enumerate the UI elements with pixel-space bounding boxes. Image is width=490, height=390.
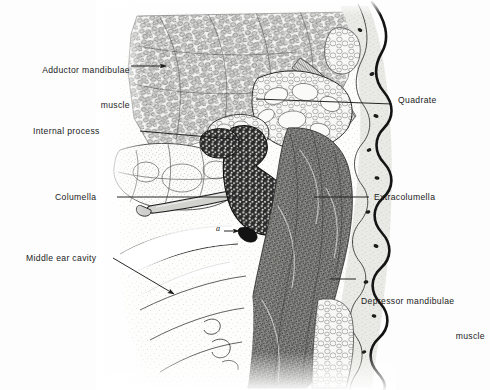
label-internal-process: Internal process <box>33 126 100 138</box>
label-columella: Columella <box>55 192 96 204</box>
label-depressor-mandibulae: Depressor mandibulae muscle <box>361 273 485 365</box>
extracolumella-upper-lobe <box>200 129 239 158</box>
upper-right-vacuolated-tissue <box>325 28 361 74</box>
label-depressor-mandibulae-line2: muscle <box>361 331 485 343</box>
anatomical-figure: Adductor mandibulae muscle Internal proc… <box>0 0 490 390</box>
label-adductor-mandibulae: Adductor mandibulae muscle <box>12 42 130 134</box>
fade-top-margin <box>110 0 380 16</box>
label-quadrate: Quadrate <box>398 95 437 107</box>
label-middle-ear-cavity: Middle ear cavity <box>26 253 96 265</box>
label-adductor-mandibulae-line1: Adductor mandibulae <box>12 65 130 77</box>
fade-bottom-margin <box>96 352 396 390</box>
label-extracolumella: Extracolumella <box>374 192 435 204</box>
annotation-point-a: a <box>216 224 220 233</box>
label-depressor-mandibulae-line1: Depressor mandibulae <box>361 296 485 308</box>
label-adductor-mandibulae-line2: muscle <box>12 100 130 112</box>
tissue-section <box>96 0 396 390</box>
